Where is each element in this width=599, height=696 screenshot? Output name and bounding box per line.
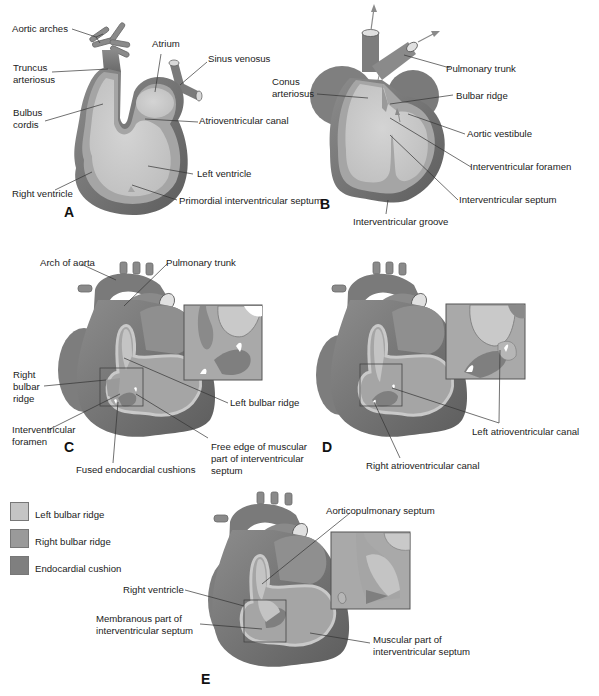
legend-swatch-right-bulbar-ridge — [10, 529, 29, 548]
panel-letter-b: B — [320, 196, 330, 212]
label-fused-endocardial-cushions: Fused endocardial cushions — [76, 464, 195, 476]
legend-item-right-bulbar-ridge: Right bulbar ridge — [10, 525, 121, 552]
label-interventricular-groove: Interventricular groove — [353, 216, 448, 228]
label-arch-of-aorta: Arch of aorta — [40, 257, 95, 269]
panel-d-diagram — [316, 262, 525, 437]
legend-swatch-left-bulbar-ridge — [10, 502, 29, 521]
label-primordial-interventricular-septum: Primordial interventricular septum — [179, 195, 322, 207]
label-interventricular-foramen-b: Interventricular foramen — [470, 161, 571, 173]
label-atrium: Atrium — [152, 38, 180, 50]
label-right-bulbar-ridge-line1: Right — [13, 369, 35, 381]
label-right-bulbar-ridge-line3: ridge — [13, 393, 34, 405]
label-bulbus-cordis-line2: cordis — [13, 119, 39, 131]
label-atrioventricular-canal: Atrioventricular canal — [199, 115, 289, 127]
label-left-bulbar-ridge-c: Left bulbar ridge — [230, 397, 299, 409]
label-bulbus-cordis-line1: Bulbus — [13, 107, 42, 119]
label-sinus-venosus: Sinus venosus — [208, 53, 270, 65]
label-truncus-arteriosus-line1: Truncus — [13, 62, 47, 74]
label-membranous-part-line2: interventricular septum — [96, 625, 193, 637]
label-free-edge-line1: Free edge of muscular — [211, 441, 307, 453]
panel-letter-d: D — [322, 439, 332, 455]
panel-d-inset — [446, 304, 525, 379]
label-free-edge-line3: septum — [211, 465, 242, 477]
label-left-atrioventricular-canal: Left atrioventricular canal — [472, 426, 579, 438]
label-pulmonary-trunk-c: Pulmonary trunk — [166, 257, 236, 269]
label-conus-arteriosus-line1: Conus — [272, 76, 300, 88]
label-muscular-part-line2: interventricular septum — [373, 646, 470, 658]
label-free-edge-line2: part of interventricular — [211, 453, 304, 465]
label-bulbar-ridge: Bulbar ridge — [456, 90, 508, 102]
label-interventricular-septum-b: Interventricular septum — [459, 194, 557, 206]
label-conus-arteriosus-line2: arteriosus — [272, 88, 314, 100]
legend-item-left-bulbar-ridge: Left bulbar ridge — [10, 498, 121, 525]
label-aortic-vestibule: Aortic vestibule — [467, 128, 532, 140]
panel-c-diagram — [58, 262, 262, 437]
panel-letter-c: C — [64, 439, 74, 455]
label-pulmonary-trunk-b: Pulmonary trunk — [446, 63, 516, 75]
legend-swatch-endocardial-cushion — [10, 556, 29, 575]
label-right-ventricle-e: Right ventricle — [123, 584, 184, 596]
label-left-ventricle: Left ventricle — [197, 168, 251, 180]
label-right-atrioventricular-canal: Right atrioventricular canal — [366, 460, 480, 472]
legend: Left bulbar ridge Right bulbar ridge End… — [10, 498, 121, 579]
label-interventricular-foramen-c-line2: foramen — [12, 436, 47, 448]
panel-e-inset — [331, 532, 410, 609]
legend-label: Endocardial cushion — [35, 563, 121, 574]
label-muscular-part-line1: Muscular part of — [373, 634, 442, 646]
panel-a-diagram — [74, 22, 202, 215]
label-membranous-part-line1: Membranous part of — [96, 613, 182, 625]
heart-development-figure — [0, 0, 599, 696]
legend-label: Left bulbar ridge — [35, 509, 104, 520]
panel-c-inset — [184, 305, 262, 380]
label-interventricular-foramen-c-line1: Interventricular — [12, 424, 75, 436]
panel-letter-e: E — [201, 671, 210, 687]
label-aortic-arches: Aortic arches — [12, 23, 68, 35]
label-right-bulbar-ridge-line2: bulbar — [13, 381, 40, 393]
panel-letter-a: A — [64, 204, 74, 220]
legend-label: Right bulbar ridge — [35, 536, 111, 547]
label-right-ventricle: Right ventricle — [12, 188, 73, 200]
legend-item-endocardial-cushion: Endocardial cushion — [10, 552, 121, 579]
label-truncus-arteriosus-line2: arteriosus — [13, 74, 55, 86]
label-aorticopulmonary-septum: Aorticopulmonary septum — [326, 505, 435, 517]
panel-b-diagram — [310, 4, 445, 203]
